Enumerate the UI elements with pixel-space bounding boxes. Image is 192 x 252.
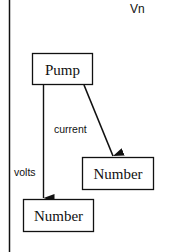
edge-volts: volts [14,85,44,198]
edge-current-arrow [84,85,113,156]
node-pump[interactable]: Pump [33,54,93,85]
node-number-current[interactable]: Number [83,158,154,190]
diagram-canvas: Vn Pump volts current Number Number [0,0,192,252]
node-number-volts-label: Number [34,208,83,224]
node-pump-label: Pump [45,62,80,78]
node-number-current-label: Number [93,166,142,182]
edge-current: current [54,85,113,156]
edge-current-label: current [54,123,87,135]
edge-volts-label: volts [14,166,36,178]
diagram-title: Vn [130,2,145,16]
node-number-volts[interactable]: Number [24,200,94,232]
